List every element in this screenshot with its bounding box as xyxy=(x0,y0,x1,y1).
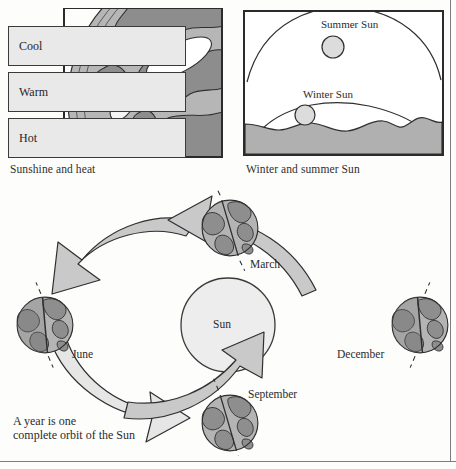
caption-year-line-2: complete orbit of the Sun xyxy=(13,428,135,442)
panel-winter-and-summer-sun: Summer Sun Winter Sun xyxy=(243,10,444,156)
winter-sun-arc xyxy=(263,103,421,128)
band-hot-label: Hot xyxy=(9,131,37,146)
sun-paths-graphic xyxy=(245,12,442,154)
winter-sun-disc xyxy=(295,105,315,125)
page-border-right xyxy=(450,0,451,462)
sun-label: Sun xyxy=(213,318,231,330)
caption-winter-and-summer-sun: Winter and summer Sun xyxy=(246,163,360,175)
panel-sunshine-and-heat: Cool Warm Hot xyxy=(8,8,223,158)
band-hot: Hot xyxy=(8,118,186,158)
band-warm: Warm xyxy=(8,72,186,112)
earth-june-label: June xyxy=(72,348,93,360)
band-cool-label: Cool xyxy=(9,39,42,54)
earth-march-label: March xyxy=(250,258,280,270)
caption-year-orbit: A year is one complete orbit of the Sun xyxy=(13,414,135,442)
earth-september-label: September xyxy=(248,388,297,400)
arrow-march-to-june xyxy=(52,218,196,294)
earth-december xyxy=(392,282,448,367)
earth-december-label: December xyxy=(337,348,384,360)
band-cool: Cool xyxy=(8,26,186,66)
summer-sun-disc xyxy=(322,36,344,58)
ground-horizon xyxy=(245,118,442,154)
figure-page: Cool Warm Hot Sunshine and heat Summer S… xyxy=(0,0,456,469)
band-warm-label: Warm xyxy=(9,85,48,100)
caption-year-line-1: A year is one xyxy=(13,414,135,428)
page-border-bottom xyxy=(0,461,456,462)
caption-sunshine-and-heat: Sunshine and heat xyxy=(10,163,95,175)
winter-sun-label: Winter Sun xyxy=(303,88,353,100)
summer-sun-label: Summer Sun xyxy=(321,18,378,30)
